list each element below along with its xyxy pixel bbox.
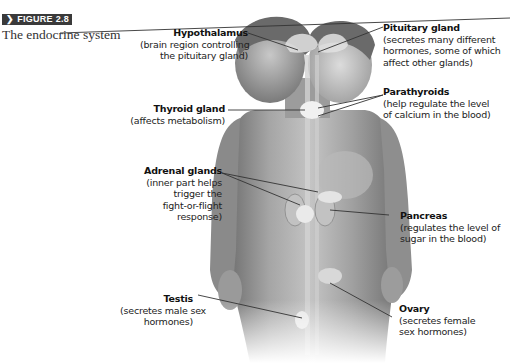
ovary-title: Ovary <box>399 303 475 315</box>
body-figure <box>200 17 420 363</box>
label-pituitary: Pituitary gland (secretes many different… <box>383 22 501 68</box>
ovary-organ <box>318 268 342 284</box>
pancreas-title: Pancreas <box>400 210 500 222</box>
pituitary-title: Pituitary gland <box>383 22 501 34</box>
ovary-desc-2: sex hormones) <box>399 326 475 338</box>
adrenal-desc-1: (inner part helps <box>140 177 222 189</box>
adrenal-gland <box>296 205 314 223</box>
adrenal-title: Adrenal glands <box>140 165 222 177</box>
hypothalamus-desc-1: (brain region controlling <box>140 39 248 51</box>
hypothalamus-desc-2: the pituitary gland) <box>140 50 248 62</box>
label-pancreas: Pancreas (regulates the level of sugar i… <box>400 210 500 245</box>
label-adrenal: Adrenal glands (inner part helps trigger… <box>140 165 222 223</box>
testis-desc-2: hormones) <box>120 316 193 328</box>
label-thyroid: Thyroid gland (affects metabolism) <box>110 103 225 126</box>
pancreas-desc-1: (regulates the level of <box>400 222 500 234</box>
pancreas-desc-2: sugar in the blood) <box>400 233 500 245</box>
parathyroids-desc-1: (help regulate the level <box>383 98 491 110</box>
label-hypothalamus: Hypothalamus (brain region controlling t… <box>140 27 248 62</box>
hypothalamus-title: Hypothalamus <box>140 27 248 39</box>
parathyroids-title: Parathyroids <box>383 86 491 98</box>
pituitary-desc-3: affect other glands) <box>383 57 501 69</box>
ovary-desc-1: (secretes female <box>399 315 475 327</box>
label-ovary: Ovary (secretes female sex hormones) <box>399 303 475 338</box>
testis-desc-1: (secretes male sex <box>120 305 193 317</box>
thyroid-title: Thyroid gland <box>110 103 225 115</box>
testis-title: Testis <box>120 293 193 305</box>
adrenal-desc-3: fight-or-flight <box>140 200 222 212</box>
pituitary-desc-1: (secretes many different <box>383 34 501 46</box>
parathyroids-desc-2: of calcium in the blood) <box>383 109 491 121</box>
pituitary-desc-2: hormones, some of which <box>383 45 501 57</box>
thyroid-desc-1: (affects metabolism) <box>110 115 225 127</box>
adrenal-desc-4: response) <box>140 211 222 223</box>
label-parathyroids: Parathyroids (help regulate the level of… <box>383 86 491 121</box>
label-testis: Testis (secretes male sex hormones) <box>120 293 193 328</box>
adrenal-desc-2: trigger the <box>140 188 222 200</box>
pancreas-organ <box>318 191 342 203</box>
